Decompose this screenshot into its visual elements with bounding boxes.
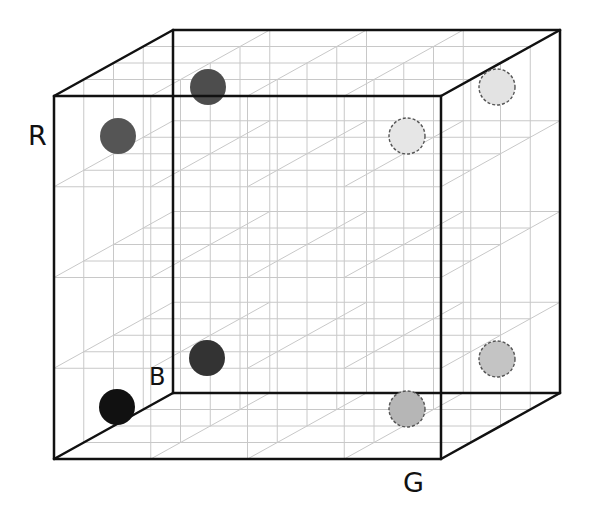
point-cyan-back-bottom-right	[479, 341, 515, 377]
point-red-front-top-left	[100, 118, 136, 154]
point-magenta-back-top-left	[190, 69, 226, 105]
point-white-back-top-right	[479, 69, 515, 105]
rgb-cube-diagram	[0, 0, 589, 525]
axis-label-g: G	[403, 469, 424, 496]
axis-label-r: R	[28, 122, 47, 149]
point-black-origin	[99, 389, 135, 425]
point-yellow-front-top-right	[389, 118, 425, 154]
axis-label-b: B	[149, 365, 165, 389]
point-green-front-bottom-right	[389, 391, 425, 427]
point-blue-back-bottom-left	[189, 340, 225, 376]
